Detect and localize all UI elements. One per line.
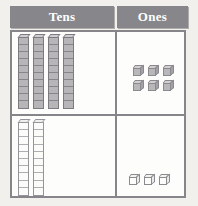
place-value-grid	[10, 30, 186, 198]
rod-unit-segment	[19, 59, 28, 66]
rod-unit-segment	[49, 87, 58, 94]
cube-row	[133, 80, 174, 91]
rod-unit-segment	[49, 52, 58, 59]
rod-unit-segment	[19, 145, 28, 152]
rod-unit-segment	[19, 73, 28, 80]
cube-face-front	[159, 177, 167, 185]
unit-cube-icon	[144, 174, 155, 185]
place-value-chart: Tens Ones	[0, 0, 198, 206]
rod-unit-segment	[19, 152, 28, 159]
rod-unit-segment	[34, 38, 43, 45]
rod-unit-segment	[19, 123, 28, 130]
rod-unit-segment	[49, 66, 58, 73]
cube-face-side	[156, 80, 159, 91]
rod-unit-segment	[19, 101, 28, 108]
rod-unit-segment	[64, 94, 73, 101]
unit-cube-icon	[133, 65, 144, 76]
rod-unit-segment	[19, 130, 28, 137]
rod-unit-segment	[49, 94, 58, 101]
cell-row2-tens	[12, 116, 115, 200]
rod-unit-segment	[19, 38, 28, 45]
base-ten-rod-icon	[48, 37, 59, 109]
rod-unit-segment	[19, 166, 28, 173]
rod-unit-segment	[34, 166, 43, 173]
base-ten-rod-icon	[63, 37, 74, 109]
cell-row2-ones	[117, 116, 188, 200]
cube-row	[129, 174, 170, 185]
rod-unit-segment	[49, 101, 58, 108]
rod-unit-segment	[34, 145, 43, 152]
rod-unit-segment	[34, 73, 43, 80]
rod-unit-segment	[64, 52, 73, 59]
rod-unit-segment	[64, 38, 73, 45]
rod-unit-segment	[64, 59, 73, 66]
rod-unit-segment	[49, 59, 58, 66]
tens-rod-group-row2	[18, 122, 44, 196]
rod-unit-segment	[64, 73, 73, 80]
cube-row	[133, 65, 174, 76]
rod-unit-segment	[19, 87, 28, 94]
rod-unit-segment	[34, 87, 43, 94]
rod-unit-segment	[19, 188, 28, 195]
rod-unit-segment	[64, 80, 73, 87]
column-header-tens: Tens	[10, 6, 114, 28]
cube-face-front	[163, 68, 171, 76]
cell-row1-tens	[12, 32, 115, 114]
rod-unit-segment	[49, 38, 58, 45]
rod-body	[63, 37, 74, 109]
cube-face-front	[163, 83, 171, 91]
base-ten-rod-icon	[18, 122, 29, 196]
cube-face-front	[133, 83, 141, 91]
rod-unit-segment	[34, 188, 43, 195]
cell-row1-ones	[117, 32, 188, 114]
column-header-ones: Ones	[117, 6, 188, 28]
unit-cube-icon	[163, 80, 174, 91]
cube-face-front	[133, 68, 141, 76]
cube-face-side	[156, 65, 159, 76]
rod-unit-segment	[34, 130, 43, 137]
rod-unit-segment	[64, 87, 73, 94]
cube-face-side	[141, 80, 144, 91]
rod-unit-segment	[49, 45, 58, 52]
cube-face-side	[167, 174, 170, 185]
unit-cube-icon	[129, 174, 140, 185]
rod-unit-segment	[19, 52, 28, 59]
rod-unit-segment	[19, 45, 28, 52]
tens-rod-group-row1	[18, 37, 74, 109]
rod-body	[18, 122, 29, 196]
cube-face-front	[148, 83, 156, 91]
rod-unit-segment	[19, 173, 28, 180]
cube-face-front	[148, 68, 156, 76]
rod-unit-segment	[34, 59, 43, 66]
cube-face-front	[144, 177, 152, 185]
cube-face-front	[129, 177, 137, 185]
rod-unit-segment	[34, 159, 43, 166]
rod-body	[33, 122, 44, 196]
cube-face-side	[141, 65, 144, 76]
rod-unit-segment	[34, 94, 43, 101]
unit-cube-icon	[148, 80, 159, 91]
rod-unit-segment	[64, 101, 73, 108]
rod-unit-segment	[19, 181, 28, 188]
unit-cube-icon	[133, 80, 144, 91]
rod-unit-segment	[34, 152, 43, 159]
rod-unit-segment	[19, 137, 28, 144]
ones-cube-group-row2	[129, 174, 170, 185]
unit-cube-icon	[148, 65, 159, 76]
rod-unit-segment	[19, 80, 28, 87]
base-ten-rod-icon	[33, 122, 44, 196]
rod-unit-segment	[34, 123, 43, 130]
cube-face-side	[171, 65, 174, 76]
rod-unit-segment	[34, 66, 43, 73]
rod-unit-segment	[19, 66, 28, 73]
rod-unit-segment	[34, 80, 43, 87]
unit-cube-icon	[163, 65, 174, 76]
cube-face-side	[171, 80, 174, 91]
cube-face-side	[152, 174, 155, 185]
rod-unit-segment	[49, 80, 58, 87]
column-header-row: Tens Ones	[10, 6, 188, 28]
rod-unit-segment	[64, 45, 73, 52]
rod-unit-segment	[64, 66, 73, 73]
rod-unit-segment	[34, 137, 43, 144]
rod-unit-segment	[34, 52, 43, 59]
